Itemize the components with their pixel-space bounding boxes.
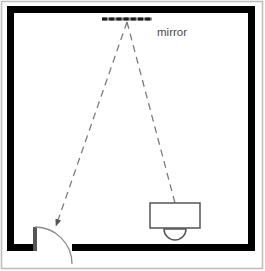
wall-bottom-left: [7, 244, 37, 251]
mirror-label: mirror: [157, 26, 187, 38]
page-background: [0, 0, 265, 271]
wall-right: [248, 6, 255, 251]
door-leaf: [33, 227, 37, 251]
desk: [150, 203, 200, 228]
wall-bottom-right: [72, 244, 255, 251]
floor-plan-diagram: mirror: [0, 0, 265, 271]
wall-top: [7, 6, 255, 13]
floor-plan-canvas: mirror: [0, 0, 265, 271]
wall-left: [7, 6, 14, 251]
